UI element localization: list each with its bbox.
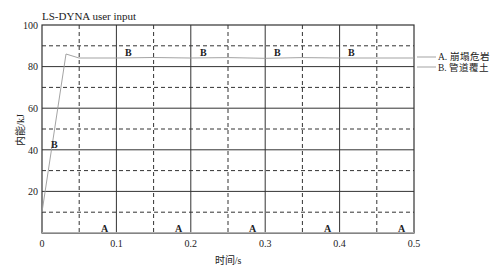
legend-b-label: B. 管道覆土 bbox=[438, 62, 489, 73]
svg-text:80: 80 bbox=[28, 61, 38, 72]
svg-text:B: B bbox=[274, 47, 281, 58]
legend-a-label: A. 崩塌危岩 bbox=[438, 51, 490, 62]
svg-text:B: B bbox=[125, 47, 132, 58]
x-axis-label: 时间/s bbox=[215, 254, 242, 266]
svg-text:A: A bbox=[324, 223, 332, 234]
series-b-markers: B B B B B bbox=[51, 47, 355, 150]
legend: A. 崩塌危岩 B. 管道覆土 bbox=[417, 51, 490, 73]
svg-text:B: B bbox=[348, 47, 355, 58]
x-axis-ticks: 0 0.1 0.2 0.3 0.4 0.5 bbox=[40, 238, 421, 249]
chart-title: LS-DYNA user input bbox=[42, 10, 136, 22]
svg-text:0.5: 0.5 bbox=[408, 238, 421, 249]
svg-text:A: A bbox=[101, 223, 109, 234]
y-axis-ticks: 100 80 60 40 20 bbox=[23, 20, 38, 197]
svg-text:0.4: 0.4 bbox=[333, 238, 346, 249]
svg-text:20: 20 bbox=[28, 186, 38, 197]
svg-text:60: 60 bbox=[28, 103, 38, 114]
svg-text:A: A bbox=[398, 223, 406, 234]
svg-text:0: 0 bbox=[40, 238, 45, 249]
svg-text:100: 100 bbox=[23, 20, 38, 31]
svg-text:A: A bbox=[249, 223, 257, 234]
svg-text:B: B bbox=[200, 47, 207, 58]
svg-text:0.1: 0.1 bbox=[110, 238, 123, 249]
svg-text:A: A bbox=[175, 223, 183, 234]
svg-text:0.3: 0.3 bbox=[259, 238, 272, 249]
line-chart: LS-DYNA user input B B B B B A bbox=[0, 0, 495, 271]
svg-text:40: 40 bbox=[28, 145, 38, 156]
svg-text:0.2: 0.2 bbox=[185, 238, 198, 249]
y-axis-label: 内能/kJ bbox=[14, 114, 26, 146]
minor-grid bbox=[42, 25, 414, 233]
svg-text:B: B bbox=[51, 139, 58, 150]
